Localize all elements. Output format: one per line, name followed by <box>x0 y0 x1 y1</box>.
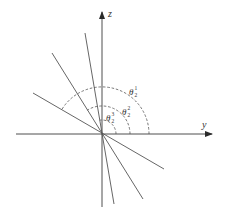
y-axis-label: y <box>201 119 207 130</box>
svg-text:2: 2 <box>135 92 138 98</box>
svg-text:1: 1 <box>135 85 138 91</box>
z-axis-label: z <box>107 8 112 19</box>
svg-text:θ: θ <box>129 87 134 97</box>
angle-diagram: z y θ 1 2 θ 2 2 θ 3 2 <box>0 0 232 223</box>
svg-text:2: 2 <box>128 112 131 118</box>
theta-label-2: θ 2 2 <box>122 105 131 119</box>
inclined-line-shallow <box>33 93 164 169</box>
theta-label-1: θ 1 2 <box>129 85 138 99</box>
svg-text:2: 2 <box>128 105 131 111</box>
inclined-line-middle <box>52 53 143 199</box>
svg-text:2: 2 <box>112 118 115 124</box>
svg-text:θ: θ <box>106 113 111 123</box>
svg-text:3: 3 <box>112 111 115 117</box>
theta-label-3: θ 3 2 <box>106 111 115 125</box>
svg-text:θ: θ <box>122 107 127 117</box>
